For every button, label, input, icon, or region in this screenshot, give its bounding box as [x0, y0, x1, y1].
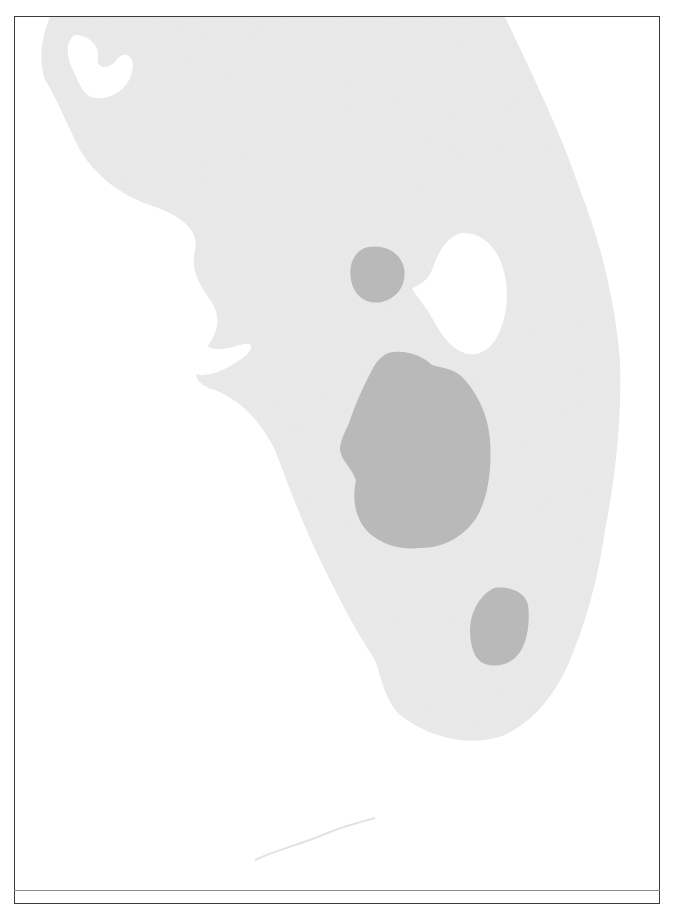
keys-trace	[255, 818, 375, 860]
map-canvas	[0, 0, 677, 923]
bottom-rule	[14, 890, 660, 891]
land-peninsula	[41, 17, 620, 741]
